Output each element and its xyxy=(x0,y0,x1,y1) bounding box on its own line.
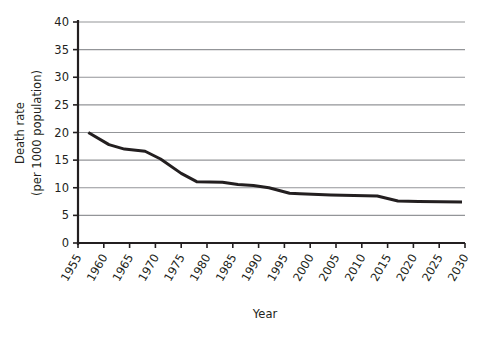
x-axis-title: Year xyxy=(252,307,278,321)
y-axis-tick-label: 15 xyxy=(54,153,69,167)
y-axis-tick-label: 5 xyxy=(62,208,69,222)
y-axis-tick-label: 30 xyxy=(54,70,69,84)
chart-background xyxy=(0,0,495,338)
y-axis-tick-label: 35 xyxy=(54,43,69,57)
y-axis-tick-label: 25 xyxy=(54,98,69,112)
y-axis-tick-label: 40 xyxy=(54,15,69,29)
chart-figure: 0510152025303540 19551960196519701975198… xyxy=(0,0,495,338)
y-axis-tick-label: 0 xyxy=(62,236,69,250)
y-axis-title-line1: Death rate xyxy=(13,102,27,164)
y-axis-tick-label: 10 xyxy=(54,181,69,195)
y-axis-title-line2: (per 1000 population) xyxy=(30,70,44,196)
y-axis-tick-label: 20 xyxy=(54,126,69,140)
death-rate-line-chart: 0510152025303540 19551960196519701975198… xyxy=(0,0,495,338)
